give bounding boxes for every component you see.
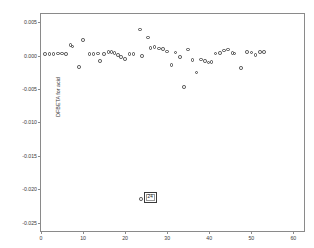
- y-tick-mark: [38, 223, 41, 224]
- y-tick-mark: [38, 189, 41, 190]
- data-point: [178, 55, 182, 59]
- data-point: [128, 52, 132, 56]
- data-point: [60, 52, 64, 56]
- data-point: [52, 52, 56, 56]
- data-point: [182, 85, 186, 89]
- data-point-outlier: [139, 197, 143, 201]
- y-tick-mark: [38, 22, 41, 23]
- data-point: [254, 53, 258, 57]
- data-point: [226, 48, 230, 52]
- data-point: [146, 36, 150, 40]
- data-point: [92, 52, 96, 56]
- data-point: [262, 50, 266, 54]
- y-axis-title: DFBETA for acid: [53, 57, 63, 137]
- data-point: [140, 54, 144, 58]
- data-point: [119, 55, 123, 59]
- data-point: [43, 52, 47, 56]
- data-point: [218, 51, 222, 55]
- data-point: [210, 60, 214, 64]
- data-point: [71, 45, 75, 49]
- data-point: [233, 52, 237, 56]
- x-tick-mark: [125, 231, 126, 234]
- y-tick-label: -0.025: [3, 219, 41, 227]
- y-tick-mark: [38, 56, 41, 57]
- data-point: [64, 52, 68, 56]
- x-tick-mark: [41, 231, 42, 234]
- chart-title: [0, 0, 314, 7]
- data-point: [123, 57, 127, 61]
- outlier-case-label: 24: [144, 192, 157, 204]
- y-tick-label: 0.000: [3, 52, 41, 60]
- y-tick-label: 0.005: [3, 18, 41, 26]
- data-point: [157, 47, 161, 51]
- x-tick-mark: [251, 231, 252, 234]
- data-point: [222, 49, 226, 53]
- data-point: [96, 52, 100, 56]
- data-point: [77, 65, 81, 69]
- data-point: [81, 38, 85, 42]
- data-point: [199, 58, 203, 62]
- data-point: [161, 47, 165, 51]
- data-point: [48, 52, 52, 56]
- data-point: [88, 52, 92, 56]
- data-point: [56, 52, 60, 56]
- y-tick-label: -0.015: [3, 152, 41, 160]
- data-point: [214, 52, 218, 56]
- data-point: [149, 46, 153, 50]
- data-point: [170, 63, 174, 67]
- data-point: [258, 50, 262, 54]
- data-point: [239, 66, 243, 70]
- y-tick-label: -0.020: [3, 185, 41, 193]
- y-tick-mark: [38, 89, 41, 90]
- y-tick-mark: [38, 122, 41, 123]
- data-point: [153, 45, 157, 49]
- plot-area: DFBETA for acid 0.0050.000-0.005-0.010-0…: [40, 13, 305, 232]
- data-point: [186, 48, 190, 52]
- dfbeta-scatter-chart: DFBETA for acid 0.0050.000-0.005-0.010-0…: [0, 0, 314, 248]
- y-tick-mark: [38, 156, 41, 157]
- x-tick-mark: [209, 231, 210, 234]
- data-point: [102, 52, 106, 56]
- data-point: [132, 52, 136, 56]
- y-tick-label: -0.010: [3, 118, 41, 126]
- x-tick-mark: [293, 231, 294, 234]
- outlier-case-label-text: 24: [146, 194, 155, 202]
- data-point: [98, 59, 102, 63]
- y-tick-label: -0.005: [3, 85, 41, 93]
- data-point: [174, 51, 178, 55]
- x-tick-mark: [167, 231, 168, 234]
- data-point: [250, 51, 254, 55]
- data-point: [245, 50, 249, 54]
- data-point: [191, 58, 195, 62]
- x-tick-mark: [83, 231, 84, 234]
- data-point: [195, 71, 199, 75]
- data-point: [138, 28, 142, 32]
- data-point: [165, 50, 169, 54]
